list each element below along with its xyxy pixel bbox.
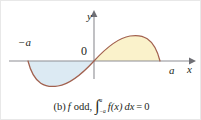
x-tick-label-a: a	[169, 65, 175, 76]
caption-equals-sign: =	[136, 101, 142, 112]
shaded-region-negative	[28, 61, 94, 87]
x-tick-label-negative-a: −a	[18, 37, 31, 48]
caption-differential: dx	[124, 101, 134, 112]
plot-area: −a 0 a x y	[1, 1, 201, 93]
integral-lower-limit: −a	[99, 109, 105, 115]
odd-function-integral-figure: −a 0 a x y (b) f odd, ∫ a −a f(x) dx = 0	[0, 0, 201, 120]
caption-result-value: 0	[144, 101, 149, 112]
caption-panel-label: (b)	[53, 101, 65, 112]
integral-upper-limit: a	[99, 98, 105, 104]
integral-expression: ∫ a −a	[95, 99, 106, 113]
origin-label: 0	[81, 45, 87, 57]
y-axis-label: y	[87, 11, 92, 22]
integral-sign: ∫	[95, 101, 99, 111]
caption-parity-word: odd,	[74, 101, 92, 112]
figure-caption: (b) f odd, ∫ a −a f(x) dx = 0	[1, 93, 201, 119]
shaded-region-positive	[94, 35, 160, 61]
integral-limits: a −a	[99, 99, 105, 113]
x-axis-label: x	[187, 64, 192, 75]
caption-integrand: f(x)	[108, 101, 123, 112]
caption-function-symbol: f	[68, 101, 71, 112]
plot-svg	[1, 1, 201, 93]
